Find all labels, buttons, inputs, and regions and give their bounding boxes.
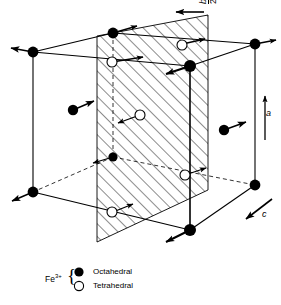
site-tetrahedral bbox=[107, 207, 117, 217]
axis-label-a: a bbox=[266, 108, 271, 118]
site-octahedral bbox=[184, 60, 196, 72]
legend-species: Fe3+ bbox=[45, 273, 62, 284]
site-octahedral bbox=[219, 125, 229, 135]
site-octahedral bbox=[108, 152, 117, 161]
axis-label-b-half: b 2 bbox=[199, 0, 218, 4]
site-tetrahedral bbox=[177, 40, 187, 50]
site-octahedral bbox=[184, 224, 196, 236]
legend-brace: { bbox=[67, 266, 76, 285]
legend-species-charge: 3+ bbox=[55, 273, 62, 279]
site-tetrahedral bbox=[107, 57, 117, 67]
site-octahedral bbox=[68, 105, 78, 115]
axis-label-b-denominator: 2 bbox=[209, 0, 218, 4]
site-octahedral bbox=[28, 187, 39, 198]
site-octahedral bbox=[108, 28, 119, 39]
site-octahedral bbox=[250, 39, 261, 50]
axis-label-c: c bbox=[262, 209, 267, 219]
site-octahedral bbox=[250, 180, 261, 191]
site-tetrahedral bbox=[180, 170, 190, 180]
site-octahedral bbox=[28, 47, 39, 58]
site-tetrahedral bbox=[135, 110, 145, 120]
legend-species-symbol: Fe bbox=[45, 274, 55, 284]
legend-label-tetrahedral: Tetrahedral bbox=[93, 281, 133, 290]
c-axis-arrow bbox=[246, 199, 272, 219]
legend-label-octahedral: Octahedral bbox=[93, 267, 132, 276]
unit-cell-drawing bbox=[0, 0, 281, 305]
crystal-structure-figure: b 2 a c Fe3+ { Octahedral Tetrahedral bbox=[0, 0, 281, 305]
